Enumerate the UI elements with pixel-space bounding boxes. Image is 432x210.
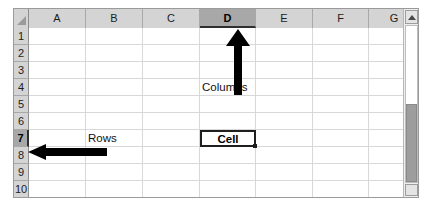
cell-A10[interactable] <box>29 181 86 198</box>
scroll-up-arrow-icon <box>408 15 416 20</box>
cell-B3[interactable] <box>86 62 143 79</box>
cell-E9[interactable] <box>256 164 313 181</box>
cell-E7[interactable] <box>256 130 313 147</box>
column-header-E[interactable]: E <box>256 9 313 28</box>
row-header-9[interactable]: 9 <box>14 164 29 181</box>
row-header-6[interactable]: 6 <box>14 113 29 130</box>
row-header-3[interactable]: 3 <box>14 62 29 79</box>
cell-D10[interactable] <box>200 181 256 198</box>
cell-E8[interactable] <box>256 147 313 164</box>
cell-C6[interactable] <box>143 113 200 130</box>
cell-C1[interactable] <box>143 28 200 45</box>
cell-F6[interactable] <box>313 113 369 130</box>
cell-F8[interactable] <box>313 147 369 164</box>
row-header-1[interactable]: 1 <box>14 28 29 45</box>
column-header-A[interactable]: A <box>29 9 86 28</box>
cell-B9[interactable] <box>86 164 143 181</box>
cell-E3[interactable] <box>256 62 313 79</box>
columns-annotation-arrow-icon <box>225 29 251 95</box>
cell-A4[interactable] <box>29 79 86 96</box>
cell-F5[interactable] <box>313 96 369 113</box>
cell-C7[interactable] <box>143 130 200 147</box>
scroll-up-button[interactable] <box>405 10 418 24</box>
cell-A3[interactable] <box>29 62 86 79</box>
cell-B6[interactable] <box>86 113 143 130</box>
cell-E4[interactable] <box>256 79 313 96</box>
row-header-7[interactable]: 7 <box>14 130 29 147</box>
scrollbar-thumb[interactable] <box>406 104 417 182</box>
column-header-D[interactable]: D <box>200 9 256 28</box>
row-header-8[interactable]: 8 <box>14 147 29 164</box>
fill-handle[interactable] <box>253 144 257 148</box>
cell-C5[interactable] <box>143 96 200 113</box>
vertical-scrollbar[interactable] <box>403 9 418 197</box>
select-all-triangle-icon <box>17 16 26 25</box>
cell-E1[interactable] <box>256 28 313 45</box>
cell-C4[interactable] <box>143 79 200 96</box>
cell-D6[interactable] <box>200 113 256 130</box>
cell-B1[interactable] <box>86 28 143 45</box>
select-all-corner-button[interactable] <box>14 9 29 28</box>
cell-B5[interactable] <box>86 96 143 113</box>
column-header-B[interactable]: B <box>86 9 143 28</box>
cell-E10[interactable] <box>256 181 313 198</box>
cell-C2[interactable] <box>143 45 200 62</box>
rows-annotation-arrow-icon <box>28 144 107 160</box>
cell-E2[interactable] <box>256 45 313 62</box>
spreadsheet-window: ABCDEFG 12345678910 ColumnsRows Cell <box>13 8 419 198</box>
cell-B4[interactable] <box>86 79 143 96</box>
column-header-C[interactable]: C <box>143 9 200 28</box>
cell-C3[interactable] <box>143 62 200 79</box>
cell-C10[interactable] <box>143 181 200 198</box>
cell-C9[interactable] <box>143 164 200 181</box>
cell-F9[interactable] <box>313 164 369 181</box>
cell-A9[interactable] <box>29 164 86 181</box>
cell-A6[interactable] <box>29 113 86 130</box>
cell-F3[interactable] <box>313 62 369 79</box>
cell-D8[interactable] <box>200 147 256 164</box>
row-header-2[interactable]: 2 <box>14 45 29 62</box>
row-header-4[interactable]: 4 <box>14 79 29 96</box>
scroll-down-button[interactable] <box>405 184 418 196</box>
cell-F1[interactable] <box>313 28 369 45</box>
grid-area: ColumnsRows <box>29 28 418 197</box>
column-header-F[interactable]: F <box>313 9 369 28</box>
column-header-row: ABCDEFG <box>14 9 418 28</box>
cell-F4[interactable] <box>313 79 369 96</box>
cell-F2[interactable] <box>313 45 369 62</box>
cell-C8[interactable] <box>143 147 200 164</box>
scrollbar-track[interactable] <box>405 25 418 183</box>
cell-F10[interactable] <box>313 181 369 198</box>
cell-D9[interactable] <box>200 164 256 181</box>
cell-B10[interactable] <box>86 181 143 198</box>
cell-F7[interactable] <box>313 130 369 147</box>
cell-A5[interactable] <box>29 96 86 113</box>
active-cell-D7[interactable]: Cell <box>200 130 256 147</box>
cell-E5[interactable] <box>256 96 313 113</box>
row-header-5[interactable]: 5 <box>14 96 29 113</box>
row-header-10[interactable]: 10 <box>14 181 29 198</box>
cell-D5[interactable] <box>200 96 256 113</box>
cell-B2[interactable] <box>86 45 143 62</box>
cell-A1[interactable] <box>29 28 86 45</box>
cell-E6[interactable] <box>256 113 313 130</box>
cell-A2[interactable] <box>29 45 86 62</box>
